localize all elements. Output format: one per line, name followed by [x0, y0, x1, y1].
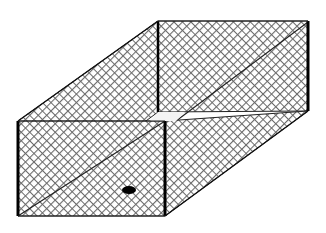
marker-oval [122, 186, 136, 194]
gabion-drawing [0, 0, 326, 233]
gabion-diagram: Gabion wire mesh box (isometric view) [0, 0, 326, 233]
back-panel [158, 21, 308, 112]
